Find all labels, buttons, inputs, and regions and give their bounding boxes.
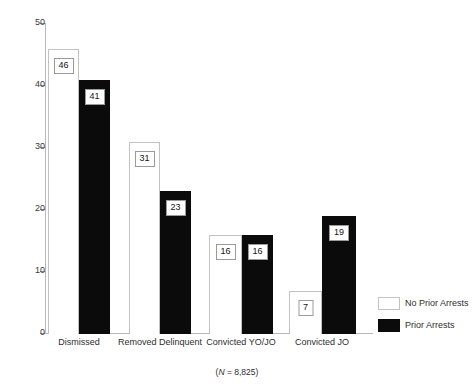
bar-value-label: 16 bbox=[247, 244, 267, 260]
bar-no-prior-arrests: 7 bbox=[289, 291, 322, 334]
bar-value-label: 31 bbox=[134, 151, 154, 167]
bar-prior-arrests: 41 bbox=[79, 80, 110, 334]
white-swatch-icon bbox=[378, 297, 400, 310]
bar-value-label: 46 bbox=[53, 58, 73, 74]
bar-chart-figure: 01020304050 464131231616719 DismissedRem… bbox=[0, 0, 474, 387]
legend-item: Prior Arrests bbox=[378, 316, 469, 334]
bar-value-label: 41 bbox=[84, 89, 104, 105]
bar-no-prior-arrests: 16 bbox=[209, 235, 242, 334]
bar-prior-arrests: 16 bbox=[242, 235, 273, 334]
legend-item: No Prior Arrests bbox=[378, 294, 469, 312]
x-axis-category-label: Convicted YO/JO bbox=[206, 337, 275, 348]
bar-value-label: 7 bbox=[298, 300, 313, 316]
bar-no-prior-arrests: 31 bbox=[129, 142, 160, 334]
bar-value-label: 19 bbox=[329, 225, 349, 241]
x-axis-category-label: Convicted JO bbox=[295, 337, 349, 348]
chart-legend: No Prior ArrestsPrior Arrests bbox=[378, 294, 469, 338]
legend-item-label: Prior Arrests bbox=[405, 321, 455, 330]
bar-value-label: 16 bbox=[215, 244, 235, 260]
bar-no-prior-arrests: 46 bbox=[48, 49, 79, 334]
bars-layer: 464131231616719 bbox=[0, 0, 474, 334]
bar-prior-arrests: 19 bbox=[322, 216, 356, 334]
bar-prior-arrests: 23 bbox=[160, 191, 191, 334]
legend-item-label: No Prior Arrests bbox=[405, 299, 469, 308]
caption-suffix: = 8,825) bbox=[225, 367, 259, 377]
sample-size-caption: (N = 8,825) bbox=[0, 367, 474, 377]
black-swatch-icon bbox=[378, 319, 400, 332]
x-axis-category-label: Removed Delinquent bbox=[118, 337, 202, 348]
x-axis-category-label: Dismissed bbox=[58, 337, 100, 348]
bar-value-label: 23 bbox=[165, 200, 185, 216]
